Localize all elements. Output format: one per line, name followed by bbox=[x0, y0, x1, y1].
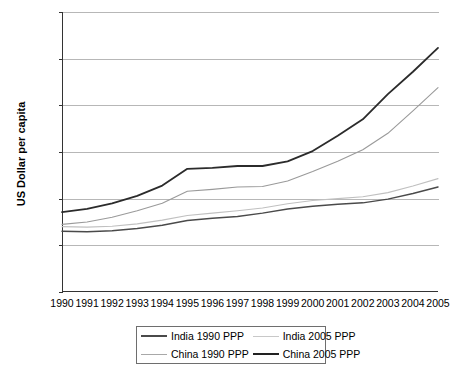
legend-item[interactable]: India 1990 PPP bbox=[137, 327, 249, 345]
legend-label: India 2005 PPP bbox=[283, 331, 356, 342]
x-axis-tick-label: 1991 bbox=[75, 296, 99, 310]
x-axis-tick-label: 2002 bbox=[351, 296, 375, 310]
x-axis-tick-label: 1996 bbox=[200, 296, 224, 310]
x-axis-tick-label: 2000 bbox=[301, 296, 325, 310]
x-axis-tick-label: 2004 bbox=[401, 296, 425, 310]
legend-item[interactable]: China 2005 PPP bbox=[249, 345, 361, 363]
series-line bbox=[62, 48, 438, 212]
x-axis-tick-label: 1994 bbox=[150, 296, 174, 310]
x-axis-tick-label: 2001 bbox=[326, 296, 350, 310]
x-axis-tick-label: 1990 bbox=[50, 296, 74, 310]
legend-label: India 1990 PPP bbox=[171, 331, 244, 342]
legend-label: China 1990 PPP bbox=[171, 349, 249, 360]
x-axis-tick-label: 1999 bbox=[276, 296, 300, 310]
series-layer bbox=[62, 12, 438, 292]
line-chart: US Dollar per capita 6,0005,0004,0003,00… bbox=[0, 0, 457, 370]
legend-swatch bbox=[141, 335, 167, 337]
x-axis-tick-label: 2005 bbox=[426, 296, 450, 310]
x-axis-tick-label: 1992 bbox=[100, 296, 124, 310]
legend-swatch bbox=[253, 353, 279, 355]
legend-item[interactable]: China 1990 PPP bbox=[137, 345, 249, 363]
legend-label: China 2005 PPP bbox=[283, 349, 361, 360]
x-axis-tick-label: 1997 bbox=[225, 296, 249, 310]
legend-swatch bbox=[141, 354, 167, 355]
legend: India 1990 PPPIndia 2005 PPPChina 1990 P… bbox=[136, 326, 326, 364]
y-axis-title: US Dollar per capita bbox=[15, 89, 27, 219]
series-line bbox=[62, 179, 438, 228]
legend-swatch bbox=[253, 336, 279, 337]
series-line bbox=[62, 88, 438, 225]
x-axis-labels: 1990199119921993199419951996199719981999… bbox=[62, 296, 438, 312]
y-axis-tick bbox=[59, 292, 63, 293]
x-axis-tick-label: 1995 bbox=[175, 296, 199, 310]
x-axis-tick-label: 2003 bbox=[376, 296, 400, 310]
legend-item[interactable]: India 2005 PPP bbox=[249, 327, 361, 345]
x-axis-tick-label: 1993 bbox=[125, 296, 149, 310]
x-axis-tick-label: 1998 bbox=[251, 296, 275, 310]
